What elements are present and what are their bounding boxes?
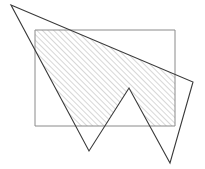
hatch-fill — [11, 5, 193, 163]
geometry-figure — [0, 0, 205, 169]
hatched-region — [11, 5, 193, 163]
figure-canvas — [0, 0, 205, 169]
